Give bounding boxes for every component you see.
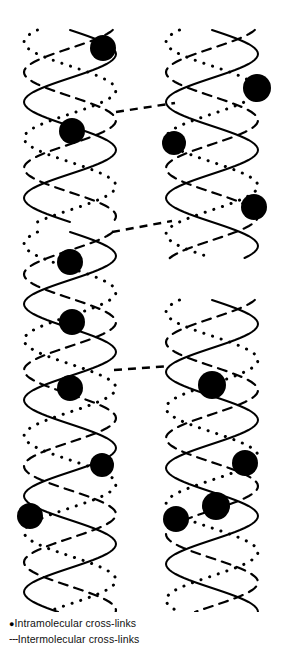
intramolecular-node xyxy=(202,492,230,520)
strand-dotted-left-lower xyxy=(24,232,116,612)
intramolecular-node xyxy=(90,453,114,477)
legend-dashes-icon: --- xyxy=(9,631,18,646)
intramolecular-node xyxy=(17,503,43,529)
intramolecular-node xyxy=(59,118,85,144)
intermolecular-link xyxy=(114,366,170,370)
intramolecular-node xyxy=(232,450,258,476)
intramolecular-node xyxy=(163,506,189,532)
intramolecular-node-layer xyxy=(17,35,271,532)
intramolecular-node xyxy=(162,131,186,155)
legend-label-intermolecular: Intermolecular cross-links xyxy=(18,632,140,647)
collagen-crosslink-figure: ● Intramolecular cross-links --- Intermo… xyxy=(0,0,282,650)
intramolecular-node xyxy=(198,371,226,399)
legend: ● Intramolecular cross-links --- Intermo… xyxy=(0,616,282,647)
intermolecular-link xyxy=(112,221,172,232)
intramolecular-node xyxy=(243,74,271,102)
triple-helix-diagram xyxy=(0,0,282,612)
intramolecular-node xyxy=(57,375,83,401)
legend-item-intramolecular: ● Intramolecular cross-links xyxy=(9,616,282,632)
intramolecular-node xyxy=(57,249,83,275)
legend-item-intermolecular: --- Intermolecular cross-links xyxy=(9,632,282,647)
strand-solid-left-lower xyxy=(24,232,116,612)
intramolecular-node xyxy=(59,309,85,335)
strand-dashed-left-lower xyxy=(24,232,116,612)
legend-label-intramolecular: Intramolecular cross-links xyxy=(15,616,137,631)
legend-bullet-icon: ● xyxy=(9,617,15,632)
intramolecular-node xyxy=(90,35,116,61)
intramolecular-node xyxy=(241,194,267,220)
